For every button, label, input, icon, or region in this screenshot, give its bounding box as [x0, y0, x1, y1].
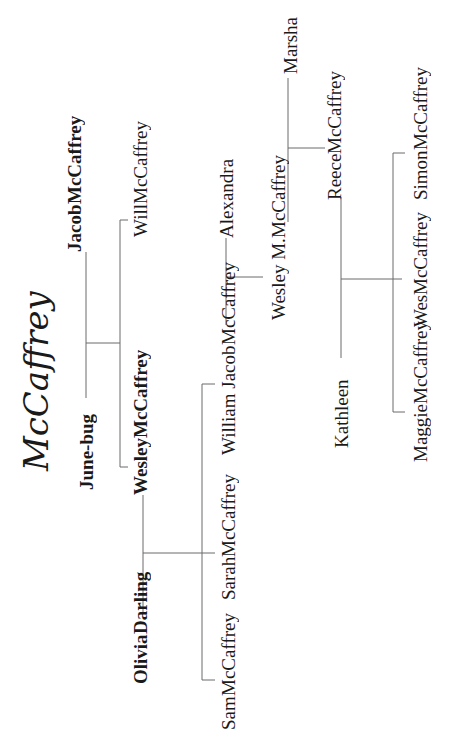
- person-surname: McCaffrey: [410, 212, 454, 295]
- person-first-name: Alexandra: [216, 159, 238, 238]
- person-first-name: Sarah: [218, 557, 262, 600]
- person-first-name: Marsha: [280, 17, 302, 74]
- person-first-name: Wesley: [130, 438, 174, 495]
- person-reece-mccaffrey: Reece McCaffrey: [324, 100, 368, 200]
- person-wesley-mccaffrey: Wesley McCaffrey: [130, 395, 174, 495]
- person-surname: McCaffrey: [218, 262, 262, 345]
- person-marsha: Marsha: [280, 2, 302, 74]
- person-surname: McCaffrey: [64, 116, 108, 204]
- person-june-bug: June-bug: [76, 398, 98, 490]
- person-first-name: Simon: [410, 150, 454, 200]
- person-first-name: Will: [130, 204, 174, 237]
- person-surname: McCaffrey: [324, 71, 368, 154]
- person-first-name: Wesley M.: [268, 238, 312, 320]
- person-surname: McCaffrey: [410, 321, 454, 404]
- person-first-name: Maggie: [410, 404, 454, 462]
- person-first-name: Reece: [324, 154, 368, 200]
- person-surname: Darling: [130, 572, 174, 634]
- person-surname: McCaffrey: [218, 474, 262, 557]
- person-first-name: Jacob: [64, 205, 108, 253]
- person-first-name: Olivia: [130, 634, 174, 684]
- person-alexandra: Alexandra: [216, 143, 238, 238]
- person-surname: McCaffrey: [410, 67, 454, 150]
- person-first-name: Kathleen: [331, 379, 353, 448]
- person-first-name: William Jacob: [218, 345, 262, 455]
- tree-title: McCaffrey: [18, 305, 56, 471]
- person-maggie-mccaffrey: Maggie McCaffrey: [410, 360, 454, 462]
- person-sarah-mccaffrey: Sarah McCaffrey: [218, 495, 262, 600]
- person-first-name: Sam: [218, 696, 262, 730]
- person-first-name: June-bug: [76, 414, 98, 490]
- person-jacob-mccaffrey: Jacob McCaffrey: [64, 148, 108, 252]
- person-surname: McCaffrey: [130, 121, 174, 204]
- person-will-mccaffrey: Will McCaffrey: [130, 145, 174, 237]
- person-william-jacob-mccaffrey: William Jacob McCaffrey: [218, 325, 262, 455]
- person-surname: McCaffrey: [130, 350, 174, 438]
- person-wes-mccaffrey: Wes McCaffrey: [410, 227, 454, 327]
- person-kathleen: Kathleen: [331, 358, 353, 448]
- family-tree-diagram: McCaffrey Jacob McCaffrey June-bug Will …: [0, 0, 454, 752]
- person-simon-mccaffrey: Simon McCaffrey: [410, 100, 454, 200]
- person-wesley-m-mccaffrey: Wesley M. McCaffrey: [268, 205, 312, 320]
- person-surname: McCaffrey: [218, 613, 262, 696]
- person-sam-mccaffrey: Sam McCaffrey: [218, 625, 262, 730]
- person-surname: McCaffrey: [268, 155, 312, 238]
- person-olivia-darling: Olivia Darling: [130, 612, 174, 684]
